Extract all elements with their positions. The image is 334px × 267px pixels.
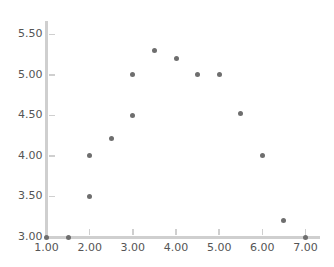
y-axis-tick-label: 5.50: [18, 27, 43, 40]
scatter-point: [130, 113, 135, 118]
y-axis-tickmark: [49, 115, 55, 117]
y-axis-tick-label: 5.00: [18, 68, 43, 81]
scatter-point: [130, 72, 135, 77]
x-axis-tickmark: [175, 229, 177, 235]
x-axis-spine: [45, 236, 320, 239]
scatter-point: [281, 218, 286, 223]
y-axis-tickmark: [49, 196, 55, 198]
y-axis-tick-label: 3.50: [18, 189, 43, 202]
y-axis-tickmark: [49, 155, 55, 157]
x-axis-tickmark: [89, 229, 91, 235]
scatter-point: [44, 235, 49, 240]
scatter-point: [109, 136, 114, 141]
scatter-point: [195, 72, 200, 77]
y-axis-tickmark: [49, 74, 55, 76]
scatter-point: [174, 56, 179, 61]
scatter-point: [152, 48, 157, 53]
scatter-point: [303, 235, 308, 240]
y-axis-spine: [45, 21, 48, 237]
scatter-point: [260, 153, 265, 158]
y-axis-tick-label: 4.00: [18, 149, 43, 162]
scatter-point: [87, 194, 92, 199]
x-axis-tick-label: 7.00: [281, 241, 331, 254]
x-axis-tickmark: [262, 229, 264, 235]
scatter-plot-figure: 3.003.504.004.505.005.501.002.003.004.00…: [0, 0, 334, 267]
scatter-point: [66, 235, 71, 240]
y-axis-tickmark: [49, 34, 55, 36]
scatter-point: [217, 72, 222, 77]
x-axis-tickmark: [218, 229, 220, 235]
x-axis-tickmark: [132, 229, 134, 235]
scatter-point: [238, 111, 243, 116]
scatter-point: [87, 153, 92, 158]
plot-area: 3.003.504.004.505.005.501.002.003.004.00…: [0, 0, 334, 267]
y-axis-tick-label: 4.50: [18, 108, 43, 121]
